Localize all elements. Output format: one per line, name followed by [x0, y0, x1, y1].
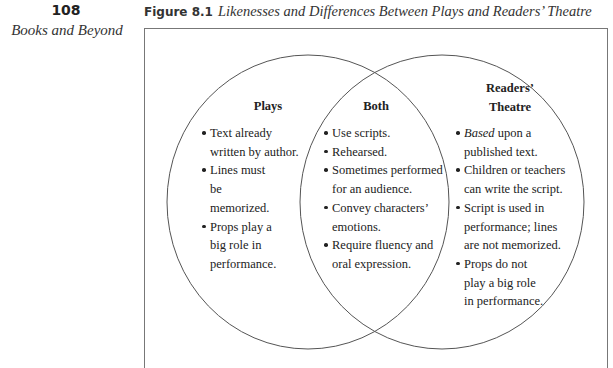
list-item: Convey characters’ emotions. — [324, 199, 432, 236]
list-item: Children or teachers can write the scrip… — [456, 161, 574, 198]
emphasis-text: Based — [464, 126, 495, 140]
readers-theatre-heading-line2: Theatre — [465, 98, 555, 117]
list-item: Based upon a published text. — [456, 124, 544, 161]
list-item: Props do not play a big role in performa… — [456, 255, 548, 311]
plays-heading: Plays — [228, 97, 308, 116]
list-item: Use scripts. — [324, 124, 444, 143]
plays-list: Text already written by author. Lines mu… — [202, 124, 312, 274]
list-item: Text already written by author. — [202, 124, 310, 161]
list-item: Require fluency and oral expression. — [324, 236, 436, 273]
readers-theatre-list: Based upon a published text. Children or… — [456, 124, 572, 311]
readers-theatre-heading-line1: Readers’ — [465, 79, 555, 98]
readers-theatre-heading: Readers’ Theatre — [465, 79, 555, 117]
list-item: Rehearsed. — [324, 143, 444, 162]
both-list: Use scripts. Rehearsed. Sometimes perfor… — [324, 124, 444, 274]
list-item: Props play a big role in performance. — [202, 218, 278, 274]
list-item: Sometimes performed for an audience. — [324, 161, 444, 198]
both-heading: Both — [346, 97, 406, 116]
list-item: Script is used in performance; lines are… — [456, 199, 564, 255]
list-item: Lines must be memorized. — [202, 161, 280, 217]
